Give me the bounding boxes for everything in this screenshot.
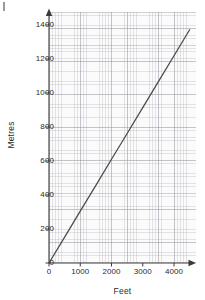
x-tick-label: 1000 [71,267,89,276]
x-axis-arrow-icon [189,260,197,266]
x-tick-label: 3000 [134,267,152,276]
x-tick-label: 0 [47,267,52,276]
y-axis-title: Metres [6,111,16,159]
axes-and-series [0,0,205,300]
x-axis-title: Feet [49,286,196,296]
conversion-chart: 0 200 400 600 800 1000 1200 1400 0 1000 … [0,0,205,300]
x-tick-label: 4000 [165,267,183,276]
x-tick-label: 2000 [102,267,120,276]
y-axis-arrow-icon [46,9,52,17]
series-line-conversion [49,30,190,263]
